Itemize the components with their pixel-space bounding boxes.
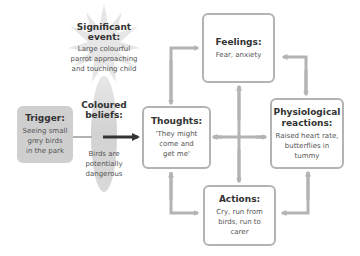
trigger-body: Seeing small grey birds in the park [23,126,68,156]
actions-body: Cry, run from birds, run to carer [216,207,263,237]
physiological-line: butterflies in [276,141,339,151]
belief-line: potentially [76,159,132,169]
thoughts-line: 'They might [156,129,198,139]
thoughts-box: Thoughts: 'They might come and get me' [142,106,211,169]
physiological-title-line: Physiological [274,107,341,118]
significant-event-line: parrot approaching [64,54,144,64]
significant-event-line: Large colourful [64,44,144,54]
significant-event-title: Significant event: [76,22,132,42]
thoughts-line: come and [156,139,198,149]
actions-box: Actions: Cry, run from birds, run to car… [203,185,276,246]
coloured-beliefs-body: Birds are potentially dangerous [76,147,132,179]
physiological-line: Raised heart rate, [276,131,339,141]
significant-event-body: Large colourful parrot approaching and t… [64,44,144,74]
physiological-body: Raised heart rate, butterflies in tummy [276,131,339,161]
trigger-box: Trigger: Seeing small grey birds in the … [17,106,73,163]
thoughts-body: 'They might come and get me' [156,129,198,159]
trigger-line: in the park [23,146,68,156]
coloured-beliefs: Coloured beliefs: [76,100,132,120]
thoughts-line: get me' [156,149,198,159]
feelings-line: Fear, anxiety [216,50,262,60]
feelings-box: Feelings: Fear, anxiety [202,13,275,83]
actions-line: Cry, run from [216,207,263,217]
actions-title: Actions: [219,194,260,205]
trigger-line: grey birds [23,136,68,146]
trigger-title: Trigger: [25,113,65,124]
actions-line: birds, run to [216,217,263,227]
physiological-title-line: reactions: [274,118,341,129]
feelings-body: Fear, anxiety [216,50,262,60]
thoughts-title: Thoughts: [151,116,202,127]
significant-event: Significant event: Large colourful parro… [64,22,144,74]
physiological-reactions-box: Physiological reactions: Raised heart ra… [270,98,344,169]
trigger-line: Seeing small [23,126,68,136]
belief-line: dangerous [76,169,132,179]
significant-event-line: and touching child [64,64,144,74]
physiological-line: tummy [276,151,339,161]
coloured-beliefs-title: Coloured beliefs: [80,100,128,120]
feelings-title: Feelings: [216,37,262,48]
coloured-beliefs-text: Birds are potentially dangerous [76,149,132,179]
physiological-title: Physiological reactions: [274,107,341,129]
belief-line: Birds are [76,149,132,159]
actions-line: carer [216,227,263,237]
